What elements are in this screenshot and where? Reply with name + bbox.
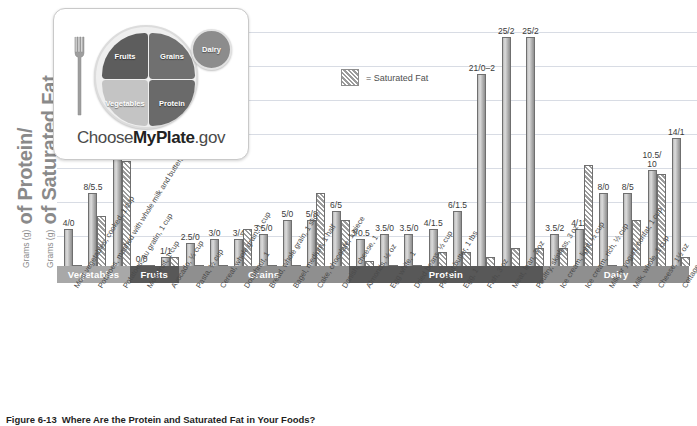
legend: = Saturated Fat <box>341 69 428 86</box>
myplate-section-grains: Grains <box>149 33 195 79</box>
myplate-section-protein: Protein <box>149 80 195 126</box>
bar-value-label: 10.5/ 10 <box>639 151 665 169</box>
bar-value-label: 3.5/2 <box>545 224 564 233</box>
bar-protein[interactable]: 4/0 <box>64 229 73 266</box>
bar-value-label: 8/0 <box>597 183 609 192</box>
myplate-section-dairy: Dairy <box>191 29 232 70</box>
myplate-wordmark: ChooseMyPlate.gov <box>54 128 248 148</box>
bar-value-label: 4/1.5 <box>424 219 443 228</box>
bar-value-label: 3.5/0 <box>375 224 394 233</box>
caption-number: Figure 6-13 <box>6 414 57 425</box>
bar-group[interactable]: 3.5/2 <box>547 10 571 266</box>
figure-container: Grams (g) of Protein/ Grams (g) of Satur… <box>0 0 697 426</box>
y-axis-title-protein: Grams (g) of Protein/ <box>14 128 37 268</box>
bar-group[interactable]: 3.5/0 <box>377 10 401 266</box>
bar-value-label: 25/2 <box>498 27 515 36</box>
fork-icon <box>74 35 85 117</box>
bar-group[interactable]: 25/2 <box>523 10 547 266</box>
bar-group[interactable]: 5/0 <box>280 10 304 266</box>
bar-value-label: 4/0 <box>63 219 75 228</box>
bar-value-label: 25/2 <box>522 27 539 36</box>
bar-group[interactable]: 14/1 <box>669 10 693 266</box>
y-axis-units-1: Grams (g) <box>21 230 31 268</box>
bar-value-label: 8/5.5 <box>83 183 102 192</box>
bar-value-label: 3/0 <box>209 229 221 238</box>
bar-group[interactable]: 3.5/0 <box>401 10 425 266</box>
wordmark-choose: Choose <box>77 128 133 147</box>
y-axis-titles: Grams (g) of Protein/ Grams (g) of Satur… <box>0 0 56 270</box>
myplate-section-vegetables: Vegetables <box>102 80 148 126</box>
legend-label-saturated-fat: = Saturated Fat <box>366 73 428 83</box>
y-axis-units-2: Grams (g) <box>45 230 55 268</box>
bar-protein[interactable]: 25/2 <box>502 37 511 266</box>
bar-protein[interactable]: 21/0–2 <box>477 74 486 266</box>
caption-text: Where Are the Protein and Saturated Fat … <box>62 414 316 425</box>
figure-caption: Figure 6-13Where Are the Protein and Sat… <box>6 414 315 425</box>
bar-value-label: 5/0 <box>281 210 293 219</box>
myplate-plate: Fruits Grains Vegetables Protein <box>94 25 198 129</box>
bar-group[interactable]: 21/0–2 <box>474 10 498 266</box>
bar-value-label: 6/1.5 <box>448 201 467 210</box>
bar-group[interactable]: 25/2 <box>499 10 523 266</box>
bar-value-label: 8/5 <box>622 183 634 192</box>
bar-saturated-fat[interactable] <box>486 257 495 266</box>
bar-saturated-fat[interactable] <box>511 248 520 266</box>
myplate-logo: Fruits Grains Vegetables Protein Dairy C… <box>53 8 249 160</box>
bar-value-label: 3.5/0 <box>399 224 418 233</box>
bar-value-label: 6/5 <box>330 201 342 210</box>
bar-value-label: 21/0–2 <box>469 64 495 73</box>
y-axis-title-protein-text: of Protein/ <box>14 128 36 225</box>
bar-group[interactable]: 6/1.5 <box>450 10 474 266</box>
wordmark-gov: .gov <box>195 128 226 147</box>
bar-group[interactable]: 4/1.5 <box>426 10 450 266</box>
bar-protein[interactable]: 25/2 <box>526 37 535 266</box>
myplate-section-fruits: Fruits <box>102 33 148 79</box>
bar-value-label: 14/1 <box>668 128 685 137</box>
x-axis-labels: Most vegetables, cooked, 1 cupPotatoes, … <box>0 283 697 395</box>
wordmark-myplate: MyPlate <box>133 128 194 147</box>
legend-swatch-saturated-fat <box>341 69 359 86</box>
